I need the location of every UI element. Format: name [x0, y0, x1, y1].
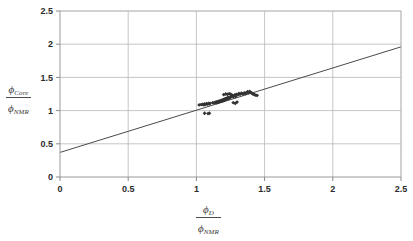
x-axis-denominator-subscript: NMR: [204, 228, 219, 236]
y-axis-label: ϕCore ϕNMR: [6, 80, 31, 117]
y-tick-label: 0.5: [40, 139, 53, 149]
x-tick-label: 1.5: [258, 184, 271, 194]
y-axis-denominator-subscript: NMR: [14, 108, 29, 116]
chart-container: 00.511.522.500.511.522.5 ϕCore ϕNMR ϕD ϕ…: [0, 0, 413, 241]
x-tick-label: 2.5: [395, 184, 408, 194]
y-tick-label: 1: [48, 106, 53, 116]
y-tick-label: 1.5: [40, 73, 53, 83]
x-tick-label: 0.5: [122, 184, 135, 194]
x-tick-label: 2: [330, 184, 335, 194]
y-tick-label: 0: [48, 172, 53, 182]
x-tick-label: 1: [194, 184, 199, 194]
y-axis-numerator-subscript: Core: [14, 89, 29, 97]
y-tick-label: 2: [48, 39, 53, 49]
x-axis-numerator-subscript: D: [209, 209, 214, 217]
x-axis-label: ϕD ϕNMR: [196, 200, 221, 237]
x-tick-label: 0: [57, 184, 62, 194]
y-tick-label: 2.5: [40, 6, 53, 16]
